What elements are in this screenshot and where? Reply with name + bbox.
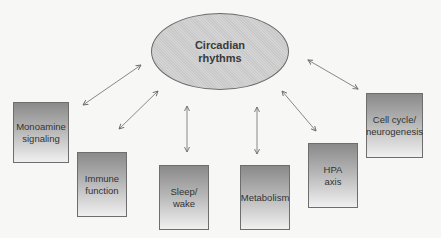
cell-cycle-neurogenesis-node: Cell cycle/ neurogenesis	[366, 93, 423, 158]
monoamine-signaling-node: Monoamine signaling	[13, 102, 69, 163]
metabolism-label: Metabolism	[241, 192, 290, 204]
cell-cycle-neurogenesis-label: Cell cycle/ neurogenesis	[366, 114, 423, 138]
sleep-wake-label: Sleep/ wake	[171, 186, 198, 210]
hpa-axis-node: HPA axis	[308, 143, 358, 208]
metabolism-node: Metabolism	[240, 165, 290, 230]
arrow-circadian-immune	[119, 91, 158, 129]
immune-function-node: Immune function	[77, 152, 127, 217]
arrow-circadian-cellcycle	[308, 60, 358, 89]
hpa-axis-label: HPA axis	[324, 164, 343, 188]
monoamine-signaling-label: Monoamine signaling	[16, 121, 66, 145]
diagram-canvas: Circadian rhythms Monoamine signaling Im…	[0, 0, 441, 238]
arrow-circadian-monoamine	[83, 65, 141, 105]
circadian-rhythms-node: Circadian rhythms	[151, 13, 289, 90]
sleep-wake-node: Sleep/ wake	[159, 165, 209, 230]
immune-function-label: Immune function	[85, 173, 119, 197]
circadian-rhythms-label: Circadian rhythms	[195, 39, 245, 65]
arrow-circadian-hpa	[282, 91, 316, 131]
